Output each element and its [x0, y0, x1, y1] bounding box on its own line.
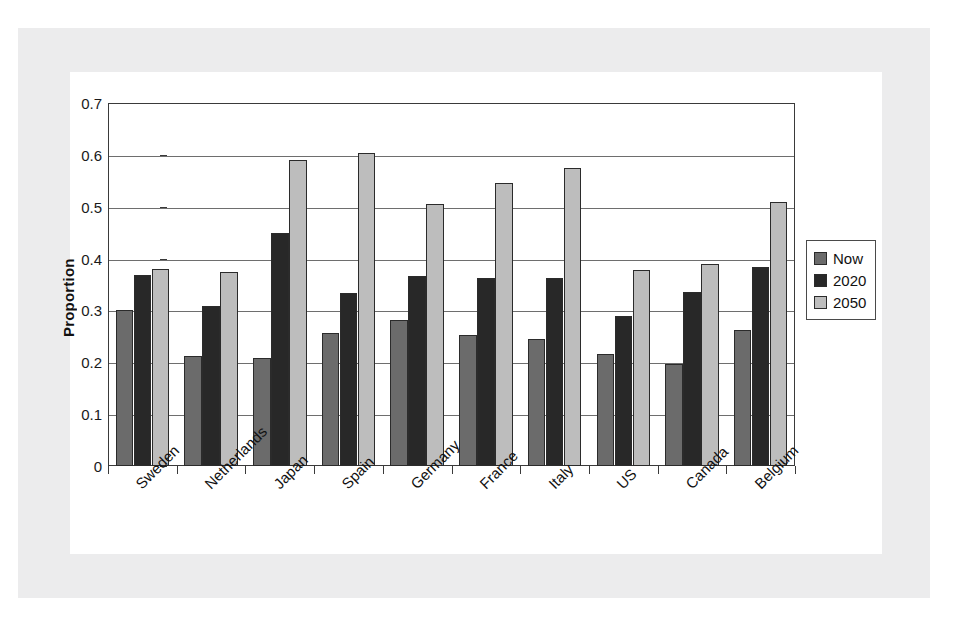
bar	[340, 293, 358, 466]
bar	[615, 316, 633, 466]
bars-layer	[108, 103, 795, 466]
bar	[770, 202, 788, 466]
x-axis-tick-mark	[726, 466, 727, 474]
bar	[134, 275, 152, 466]
x-axis-tick-mark	[795, 466, 796, 474]
legend-label: 2050	[833, 295, 866, 310]
bar	[184, 356, 202, 466]
bar	[408, 276, 426, 466]
y-axis-tick-label: 0.1	[64, 406, 102, 423]
y-axis-tick-label: 0.7	[64, 95, 102, 112]
y-axis-tick-label: 0	[64, 458, 102, 475]
bar	[633, 270, 651, 466]
x-axis-tick-mark	[108, 466, 109, 474]
bar	[477, 278, 495, 466]
bar	[116, 310, 134, 466]
bar	[528, 339, 546, 466]
y-axis-tick-label: 0.4	[64, 250, 102, 267]
bar	[752, 267, 770, 466]
x-axis-tick-mark	[177, 466, 178, 474]
legend-swatch-icon	[814, 252, 827, 265]
x-axis-tick-mark	[314, 466, 315, 474]
bar	[202, 306, 220, 466]
bar	[271, 233, 289, 466]
y-axis-tick-label: 0.3	[64, 302, 102, 319]
chart-legend: Now20202050	[806, 240, 876, 320]
bar	[546, 278, 564, 466]
bar	[426, 204, 444, 466]
scanned-page: Proportion 00.10.20.30.40.50.60.7 Now202…	[0, 0, 962, 638]
bar	[390, 320, 408, 466]
bar	[253, 358, 271, 466]
legend-swatch-icon	[814, 274, 827, 287]
bar	[597, 354, 615, 466]
legend-label: Now	[833, 251, 863, 266]
legend-swatch-icon	[814, 296, 827, 309]
bar	[734, 330, 752, 466]
bar	[220, 272, 238, 466]
bar	[289, 160, 307, 466]
bar	[683, 292, 701, 466]
bar	[358, 153, 376, 466]
x-axis-tick-mark	[658, 466, 659, 474]
y-axis-tick-label: 0.6	[64, 146, 102, 163]
bar	[495, 183, 513, 466]
y-axis-tick-labels: 00.10.20.30.40.50.60.7	[58, 0, 102, 638]
bar	[152, 269, 170, 466]
legend-item: 2050	[814, 291, 866, 313]
bar	[665, 364, 683, 466]
x-axis-tick-mark	[520, 466, 521, 474]
legend-label: 2020	[833, 273, 866, 288]
x-axis-tick-mark	[383, 466, 384, 474]
bar	[322, 333, 340, 466]
x-axis-tick-mark	[589, 466, 590, 474]
legend-item: Now	[814, 247, 866, 269]
y-axis-tick-label: 0.5	[64, 198, 102, 215]
legend-item: 2020	[814, 269, 866, 291]
x-axis-tick-mark	[245, 466, 246, 474]
bar	[701, 264, 719, 466]
bar-chart: Proportion 00.10.20.30.40.50.60.7 Now202…	[0, 0, 962, 638]
bar	[564, 168, 582, 466]
x-axis-tick-mark	[452, 466, 453, 474]
x-axis-category-label: US	[613, 465, 640, 492]
y-axis-tick-label: 0.2	[64, 354, 102, 371]
